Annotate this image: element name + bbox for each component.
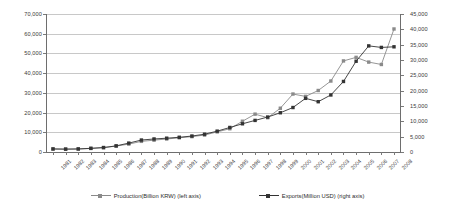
right-axis-labels: 05,00010,00015,00020,00025,00030,00035,0… xyxy=(405,14,455,152)
series-marker xyxy=(152,137,155,140)
x-axis-tick-label: 2007 xyxy=(388,158,401,171)
x-axis-tick-label: 1994 xyxy=(224,158,237,171)
series-marker xyxy=(380,46,383,49)
x-axis-tick-label: 1982 xyxy=(72,158,85,171)
series-marker xyxy=(241,122,244,125)
series-marker xyxy=(354,56,357,59)
legend-marker-icon xyxy=(91,192,111,199)
y-axis-left-tick-label: 40,000 xyxy=(24,70,42,76)
x-axis-tick-label: 1995 xyxy=(236,158,249,171)
legend-label: Production(Billion KRW) (left axis) xyxy=(114,193,201,199)
x-axis-tick-label: 1992 xyxy=(198,158,211,171)
series-marker xyxy=(77,147,80,150)
y-axis-left-tick-label: 10,000 xyxy=(24,129,42,135)
series-marker xyxy=(190,134,193,137)
x-axis-tick-label: 1991 xyxy=(186,158,199,171)
y-axis-right-tick-label: 35,000 xyxy=(410,42,428,48)
x-axis-tick-label: 2004 xyxy=(350,158,363,171)
series-marker xyxy=(178,136,181,139)
series-marker xyxy=(304,97,307,100)
y-axis-right-tick xyxy=(401,29,404,30)
y-axis-right-tick-label: 15,000 xyxy=(410,103,428,109)
y-axis-right-tick xyxy=(401,91,404,92)
series-marker xyxy=(392,27,395,30)
y-axis-right-tick xyxy=(401,14,404,15)
series-marker xyxy=(291,92,294,95)
plot-area xyxy=(46,14,401,152)
y-axis-right-tick xyxy=(401,60,404,61)
y-axis-right-tick xyxy=(401,137,404,138)
x-axis-tick-label: 1987 xyxy=(135,158,148,171)
series-marker xyxy=(329,79,332,82)
x-axis-tick-label: 1996 xyxy=(249,158,262,171)
x-axis-tick-label: 2000 xyxy=(299,158,312,171)
x-axis-tick-label: 2002 xyxy=(325,158,338,171)
x-axis-tick-label: 2003 xyxy=(337,158,350,171)
y-axis-right-tick-label: 20,000 xyxy=(410,88,428,94)
left-axis-labels: 010,00020,00030,00040,00050,00060,00070,… xyxy=(0,14,42,152)
x-axis-tick-label: 1985 xyxy=(110,158,123,171)
series-marker xyxy=(64,147,67,150)
series-marker xyxy=(89,147,92,150)
series-marker xyxy=(317,100,320,103)
series-marker xyxy=(367,44,370,47)
series-marker xyxy=(392,45,395,48)
x-axis-tick-label: 1999 xyxy=(287,158,300,171)
series-marker xyxy=(51,147,54,150)
y-axis-right-tick xyxy=(401,152,404,153)
legend-label: Exports(Million USD) (right axis) xyxy=(282,193,364,199)
series-marker xyxy=(228,126,231,129)
y-axis-right-tick-label: 5,000 xyxy=(410,134,425,140)
legend-item: Exports(Million USD) (right axis) xyxy=(259,192,364,199)
series-line xyxy=(53,29,394,149)
y-axis-right-tick-label: 0 xyxy=(410,149,413,155)
x-axis-tick-label: 1981 xyxy=(60,158,73,171)
series-marker xyxy=(329,93,332,96)
x-axis-tick-label: 2001 xyxy=(312,158,325,171)
x-axis-labels: 1981198219831984198519861987198819891990… xyxy=(46,152,401,182)
series-marker xyxy=(279,107,282,110)
x-axis-tick-label: 1983 xyxy=(85,158,98,171)
y-axis-right-tick xyxy=(401,121,404,122)
x-axis-tick-label: 2005 xyxy=(363,158,376,171)
y-axis-left-tick-label: 30,000 xyxy=(24,90,42,96)
chart-container: 010,00020,00030,00040,00050,00060,00070,… xyxy=(0,0,455,204)
series-marker xyxy=(367,60,370,63)
x-axis-tick-label: 1984 xyxy=(97,158,110,171)
x-axis-tick-label: 1986 xyxy=(123,158,136,171)
y-axis-right-tick-label: 10,000 xyxy=(410,118,428,124)
x-axis-tick-label: 2008 xyxy=(401,158,414,171)
y-axis-right-tick xyxy=(401,106,404,107)
y-axis-right-tick xyxy=(401,75,404,76)
series-marker xyxy=(253,119,256,122)
series-marker xyxy=(380,63,383,66)
y-axis-right-tick-label: 40,000 xyxy=(410,26,428,32)
x-axis-tick-label: 2006 xyxy=(375,158,388,171)
series-marker xyxy=(253,112,256,115)
series-marker xyxy=(215,129,218,132)
series-marker xyxy=(342,59,345,62)
series-marker xyxy=(354,60,357,63)
series-marker xyxy=(140,138,143,141)
series-layer xyxy=(46,14,401,152)
x-axis-tick-label: 1998 xyxy=(274,158,287,171)
y-axis-left-tick-label: 0 xyxy=(39,149,42,155)
x-axis-tick-label: 1990 xyxy=(173,158,186,171)
series-marker xyxy=(114,144,117,147)
series-marker xyxy=(127,141,130,144)
series-marker xyxy=(342,80,345,83)
x-axis-tick-label: 1988 xyxy=(148,158,161,171)
series-marker xyxy=(102,146,105,149)
y-axis-left-tick-label: 70,000 xyxy=(24,11,42,17)
legend-item: Production(Billion KRW) (left axis) xyxy=(91,192,201,199)
series-marker xyxy=(279,111,282,114)
y-axis-right-tick-label: 45,000 xyxy=(410,11,428,17)
y-axis-left-tick-label: 60,000 xyxy=(24,31,42,37)
x-axis-tick-label: 1997 xyxy=(262,158,275,171)
x-axis-tick-label: 1993 xyxy=(211,158,224,171)
legend-marker-icon xyxy=(259,192,279,199)
chart-legend: Production(Billion KRW) (left axis)Expor… xyxy=(0,192,455,199)
y-axis-left-tick-label: 50,000 xyxy=(24,50,42,56)
y-axis-right-tick xyxy=(401,45,404,46)
y-axis-right-tick-label: 30,000 xyxy=(410,57,428,63)
